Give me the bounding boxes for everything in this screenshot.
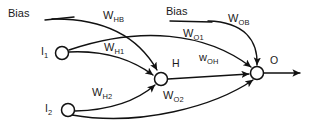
edge-input2-to-hidden — [75, 85, 155, 111]
weight-symbol-w-oh: w — [199, 52, 207, 63]
weight-label-w-ob: WOB — [228, 13, 250, 24]
weight-sub-w-o1: O1 — [193, 33, 203, 42]
edge-input1-to-hidden — [69, 52, 153, 75]
node-input-2 — [62, 104, 75, 117]
bias-line-output — [170, 21, 212, 22]
weight-symbol-w-h1: W — [104, 42, 114, 53]
node-label-input-1: I1 — [41, 46, 48, 57]
weight-sub-w-h1: H1 — [114, 47, 124, 56]
weight-sub-w-hb: HB — [113, 15, 124, 24]
node-label-input-1-sub: 1 — [44, 51, 48, 60]
weight-label-w-o1: WO1 — [183, 28, 204, 39]
edge-input1-to-output — [69, 36, 251, 67]
weight-label-w-oh: wOH — [199, 52, 219, 63]
edge-hidden-to-output — [168, 74, 249, 79]
weight-symbol-w-h2: W — [92, 87, 102, 98]
network-diagram-canvas: Bias Bias I1 I2 H O WHB WH1 WH2 WOB WO1 … — [0, 0, 314, 128]
weight-label-w-o2: WO2 — [163, 90, 184, 101]
node-output-o — [251, 67, 264, 80]
bias-label-hidden: Bias — [8, 8, 29, 19]
weight-symbol-w-o1: W — [183, 28, 193, 39]
node-hidden-h — [155, 73, 168, 86]
weight-symbol-w-o2: W — [163, 90, 173, 101]
node-label-input-2: I2 — [45, 103, 52, 114]
node-label-output-o: O — [270, 55, 278, 66]
node-label-hidden-h: H — [172, 58, 180, 69]
node-label-input-2-sub: 2 — [48, 108, 52, 117]
weight-label-w-hb: WHB — [103, 10, 124, 21]
weight-sub-w-h2: H2 — [102, 92, 112, 101]
weight-label-w-h1: WH1 — [104, 42, 124, 53]
weight-symbol-w-hb: W — [103, 10, 113, 21]
weight-symbol-w-ob: W — [228, 13, 238, 24]
nodes-group — [56, 47, 264, 117]
weight-sub-w-oh: OH — [207, 57, 219, 66]
node-input-1 — [56, 47, 69, 60]
weight-label-w-h2: WH2 — [92, 87, 112, 98]
weight-sub-w-o2: O2 — [173, 95, 183, 104]
bias-label-output: Bias — [166, 6, 187, 17]
weight-sub-w-ob: OB — [238, 18, 249, 27]
